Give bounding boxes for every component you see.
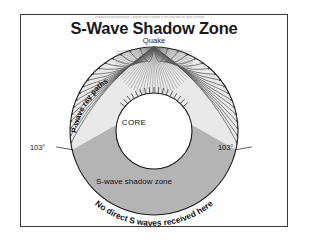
angle-leader-left bbox=[56, 147, 73, 150]
slide-page: Reproduced with permission. Copyright no… bbox=[0, 0, 309, 244]
angle-leader-right bbox=[235, 147, 252, 150]
core-label: CORE bbox=[0, 118, 268, 127]
angle-label-left: 103° bbox=[30, 143, 45, 152]
core-circle bbox=[116, 93, 192, 169]
angle-label-right: 103° bbox=[218, 143, 233, 152]
shadow-zone-label: S-wave shadow zone bbox=[0, 177, 268, 186]
